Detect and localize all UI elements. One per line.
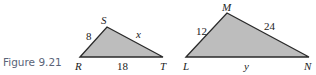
vertex-label-t: T — [160, 60, 167, 72]
side-label-st: x — [135, 28, 141, 40]
vertex-label-s: S — [101, 14, 107, 26]
vertex-label-m: M — [221, 1, 232, 13]
side-label-ln: y — [243, 60, 249, 72]
triangle-lmn: M L N 12 24 y — [182, 1, 312, 72]
vertex-label-r: R — [74, 60, 82, 72]
vertex-label-n: N — [303, 60, 312, 72]
side-label-mn: 24 — [264, 20, 276, 32]
side-label-rs: 8 — [86, 30, 92, 42]
side-label-rt: 18 — [117, 60, 129, 72]
triangle-rst: S R T 8 x 18 — [74, 14, 167, 72]
similar-triangles-diagram: S R T 8 x 18 M L N 12 24 y — [0, 0, 316, 75]
triangle-rst-shape — [80, 27, 163, 57]
side-label-lm: 12 — [196, 25, 207, 37]
vertex-label-l: L — [182, 60, 189, 72]
